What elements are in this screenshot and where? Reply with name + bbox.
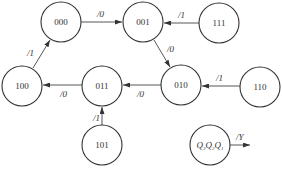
- transition-110-010: /1: [202, 73, 240, 86]
- state-label: 001: [136, 17, 150, 27]
- state-101: 101: [82, 125, 122, 165]
- state-010: 010: [161, 65, 201, 105]
- state-label: 110: [253, 82, 267, 92]
- legend-output-label: /Y: [235, 132, 245, 142]
- state-label: 100: [15, 81, 29, 91]
- transition-011-100: /0: [43, 85, 82, 99]
- transition-label: /0: [136, 89, 145, 99]
- transition-label: /1: [177, 10, 185, 20]
- transition-label: /0: [59, 89, 68, 99]
- transition-label: /1: [92, 113, 100, 123]
- state-110: 110: [240, 67, 280, 107]
- transition-111-001: /1: [164, 10, 199, 23]
- transition-101-011: /1: [92, 107, 102, 125]
- state-011: 011: [82, 66, 122, 106]
- state-label: 010: [174, 80, 188, 90]
- state-label: 000: [54, 17, 68, 27]
- state-000: 000: [41, 2, 81, 42]
- transition-label: /1: [26, 48, 34, 58]
- transition-label: /0: [166, 44, 175, 54]
- state-diagram: /0 /1 /0 /1 /0 /0 /1 /1 000 001 111: [0, 0, 282, 174]
- state-100: 100: [2, 66, 42, 106]
- transition-100-000: /1: [26, 40, 50, 68]
- transition-001-010: /0: [154, 40, 175, 67]
- state-001: 001: [123, 2, 163, 42]
- state-label: 011: [95, 81, 108, 91]
- transition-000-001: /0: [81, 9, 122, 22]
- state-label: 101: [95, 140, 109, 150]
- state-label: 111: [213, 18, 226, 28]
- transition-label: /0: [96, 9, 105, 19]
- transition-010-011: /0: [123, 85, 161, 99]
- state-111: 111: [199, 3, 239, 43]
- legend-state-label: Q3Q2Q1: [197, 140, 224, 151]
- transition-label: /1: [215, 73, 223, 83]
- legend: Q3Q2Q1 /Y: [190, 125, 250, 165]
